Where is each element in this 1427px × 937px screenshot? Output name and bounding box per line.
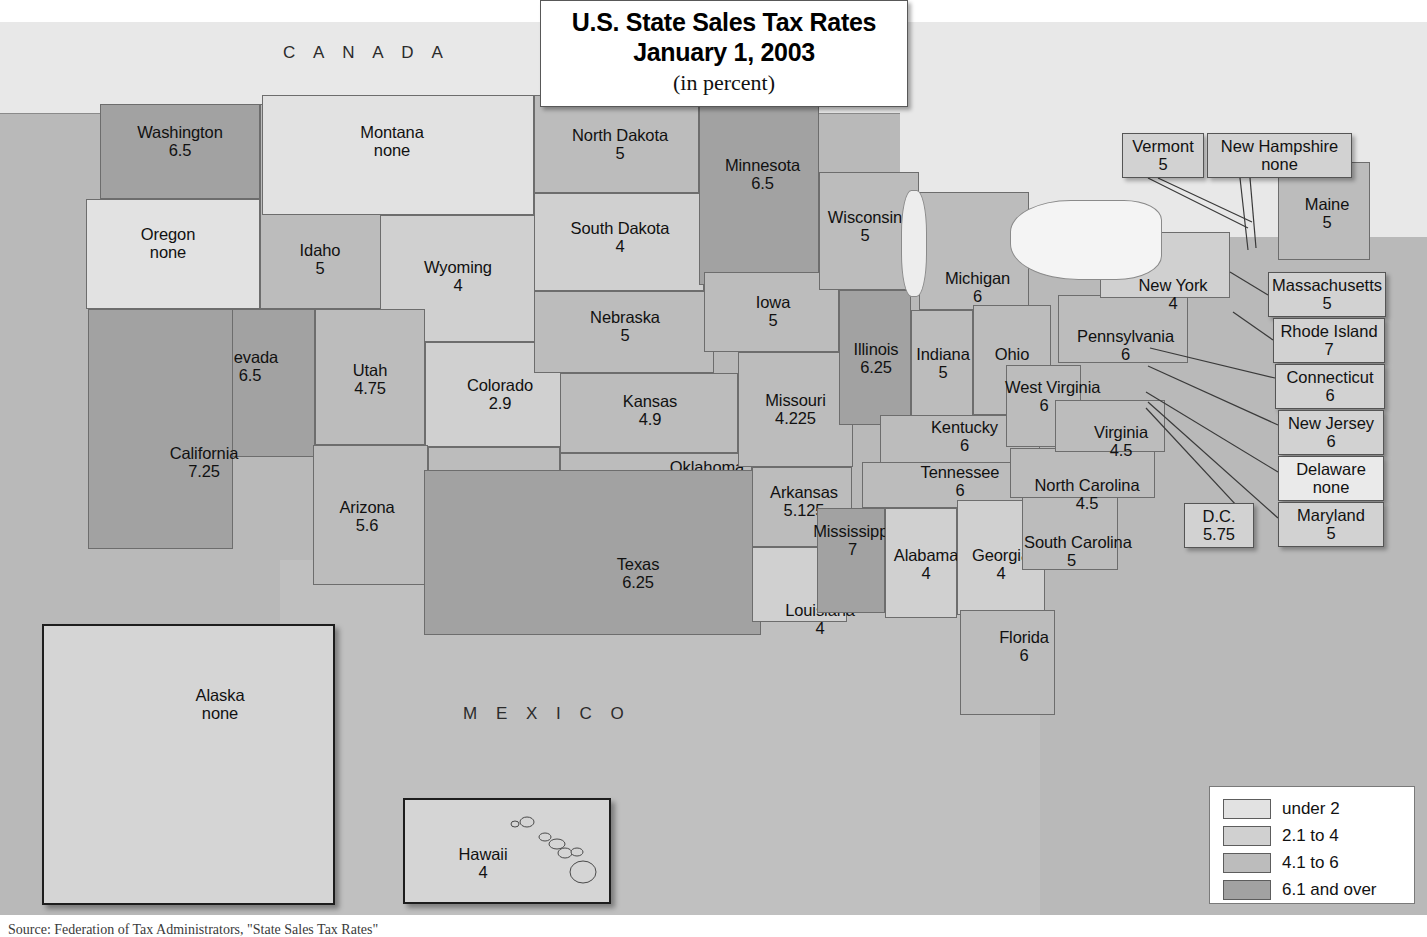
legend-item: 2.1 to 4: [1223, 823, 1414, 848]
state-label-texas: Texas 6.25: [583, 555, 693, 591]
state-label-pennsylvania: Pennsylvania 6: [1063, 327, 1188, 363]
title-line-3: (in percent): [541, 70, 907, 96]
hawaii-islands-shapes: [405, 800, 613, 906]
title-line-2: January 1, 2003: [541, 38, 907, 67]
legend-label: 4.1 to 6: [1282, 853, 1339, 873]
legend-label: 2.1 to 4: [1282, 826, 1339, 846]
state-label-minnesota: Minnesota 6.5: [700, 156, 825, 192]
legend-label: 6.1 and over: [1282, 880, 1377, 900]
hawaii-inset: Hawaii 4: [403, 798, 611, 904]
state-label-oregon: Oregon none: [108, 225, 228, 261]
state-label-north-dakota: North Dakota 5: [545, 126, 695, 162]
state-label-kentucky: Kentucky 6: [912, 418, 1017, 454]
state-label-wyoming: Wyoming 4: [398, 258, 518, 294]
state-label-arizona: Arizona 5.6: [312, 498, 422, 534]
alaska-inset: Alaska none: [42, 624, 335, 905]
state-label-montana: Montana none: [330, 123, 454, 159]
legend-swatch-4-1-to-6: [1223, 853, 1271, 873]
map-page: C A N A D A M E X I C O Washington 6.5 O…: [0, 0, 1427, 937]
legend-label: under 2: [1282, 799, 1340, 819]
map-title-card: U.S. State Sales Tax Rates January 1, 20…: [540, 0, 908, 107]
state-label-idaho: Idaho 5: [261, 241, 379, 277]
title-line-1: U.S. State Sales Tax Rates: [541, 8, 907, 37]
legend-item: under 2: [1223, 796, 1414, 821]
state-texas: [424, 470, 761, 635]
great-lakes-water: [1010, 200, 1162, 280]
legend-swatch-6-1-and-over: [1223, 880, 1271, 900]
state-label-south-carolina: South Carolina 5: [1024, 533, 1119, 569]
state-label-iowa: Iowa 5: [718, 293, 828, 329]
legend-item: 4.1 to 6: [1223, 850, 1414, 875]
country-label-canada: C A N A D A: [283, 43, 450, 63]
state-label-utah: Utah 4.75: [318, 361, 422, 397]
state-label-kansas: Kansas 4.9: [575, 392, 725, 428]
state-label-north-carolina: North Carolina 4.5: [1022, 476, 1152, 512]
callout-maryland: Maryland 5: [1278, 502, 1384, 547]
state-label-south-dakota: South Dakota 4: [545, 219, 695, 255]
state-label-new-york: New York 4: [1118, 276, 1228, 312]
lake-michigan-water: [901, 190, 927, 297]
callout-connecticut: Connecticut 6: [1275, 364, 1385, 409]
state-label-california: California 7.25: [144, 444, 264, 480]
callout-vermont: Vermont 5: [1122, 133, 1204, 178]
state-label-colorado: Colorado 2.9: [440, 376, 560, 412]
state-label-florida: Florida 6: [978, 628, 1070, 664]
legend-swatch-under-2: [1223, 799, 1271, 819]
state-label-maine: Maine 5: [1281, 195, 1373, 231]
callout-rhode-island: Rhode Island 7: [1273, 318, 1385, 363]
legend-item: 6.1 and over: [1223, 877, 1414, 902]
state-label-michigan: Michigan 6: [925, 269, 1030, 305]
state-label-tennessee: Tennessee 6: [900, 463, 1020, 499]
state-label-washington: Washington 6.5: [120, 123, 240, 159]
legend-swatch-2-1-to-4: [1223, 826, 1271, 846]
callout-new-jersey: New Jersey 6: [1278, 410, 1384, 455]
state-label-alaska: Alaska none: [166, 686, 274, 722]
state-label-nebraska: Nebraska 5: [550, 308, 700, 344]
state-label-virginia: Virginia 4.5: [1072, 423, 1170, 459]
country-label-mexico: M E X I C O: [463, 704, 631, 724]
callout-massachusetts: Massachusetts 5: [1268, 272, 1386, 317]
callout-delaware: Delaware none: [1278, 456, 1384, 501]
callout-new-hampshire: New Hampshire none: [1207, 133, 1352, 178]
callout-dc: D.C. 5.75: [1184, 503, 1254, 548]
source-note: Source: Federation of Tax Administrators…: [8, 922, 378, 937]
map-legend: under 2 2.1 to 4 4.1 to 6 6.1 and over: [1209, 786, 1415, 904]
state-california: [88, 309, 233, 549]
